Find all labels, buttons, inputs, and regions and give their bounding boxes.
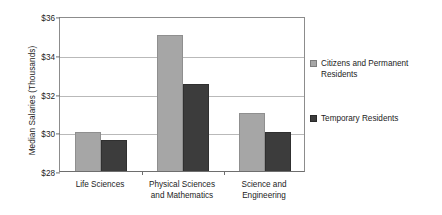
bars-layer [60, 18, 304, 171]
bar [265, 132, 291, 171]
x-axis-label: Life Sciences [59, 180, 141, 191]
y-axis-title: Median Salaries (Thousands) [28, 21, 37, 181]
plot-area: $36$34$32$30$28 [59, 17, 305, 172]
legend-swatch [310, 115, 317, 122]
y-tick-label: $36 [41, 14, 60, 23]
x-axis-label: Physical Sciencesand Mathematics [141, 180, 223, 201]
x-axis-label-line: and Mathematics [141, 191, 223, 202]
y-tick-label: $34 [41, 52, 60, 61]
y-tick-label: $30 [41, 130, 60, 139]
x-axis-label: Science andEngineering [223, 180, 305, 201]
legend-item[interactable]: Citizens and Permanent Residents [310, 58, 439, 80]
bar [239, 113, 265, 171]
bar [157, 35, 183, 171]
bar [183, 84, 209, 171]
legend-label: Citizens and Permanent Residents [321, 58, 439, 80]
y-tick-label: $28 [41, 169, 60, 178]
x-axis-label-line: Life Sciences [59, 180, 141, 191]
y-tick-label: $32 [41, 91, 60, 100]
bar [75, 132, 101, 171]
x-tick-mark [224, 171, 225, 175]
bar-chart: Median Salaries (Thousands) $36$34$32$30… [0, 0, 442, 215]
chart-legend: Citizens and Permanent ResidentsTemporar… [310, 0, 442, 215]
legend-swatch [310, 60, 317, 67]
bar [101, 140, 127, 171]
x-axis-label-line: Engineering [223, 191, 305, 202]
legend-label: Temporary Residents [321, 113, 439, 124]
legend-item[interactable]: Temporary Residents [310, 113, 439, 124]
x-axis-label-line: Physical Sciences [141, 180, 223, 191]
x-axis-label-line: Science and [223, 180, 305, 191]
x-tick-mark [142, 171, 143, 175]
